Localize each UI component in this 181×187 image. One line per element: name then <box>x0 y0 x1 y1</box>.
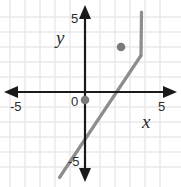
y-axis-tick-label-positive: 5 <box>71 12 78 25</box>
x-axis-variable-label: x <box>142 112 150 131</box>
point-second <box>117 43 126 52</box>
coordinate-graph-figure: -5 5 5 -5 0 y x <box>0 0 181 187</box>
y-axis-tick-label-negative: -5 <box>68 155 80 168</box>
arrow-right-icon <box>163 86 177 98</box>
origin-label: 0 <box>71 95 78 108</box>
point-y-intercept <box>81 96 90 105</box>
marked-points <box>81 43 126 105</box>
arrow-left-icon <box>4 86 18 98</box>
x-axis-tick-label-negative: -5 <box>10 100 22 113</box>
plot-canvas <box>0 0 181 187</box>
x-axis-tick-label-positive: 5 <box>158 100 165 113</box>
arrow-down-icon <box>79 168 91 182</box>
y-axis-variable-label: y <box>56 28 64 47</box>
x-axis <box>4 86 177 98</box>
grid-lines <box>0 0 181 187</box>
arrow-up-icon <box>79 5 91 19</box>
